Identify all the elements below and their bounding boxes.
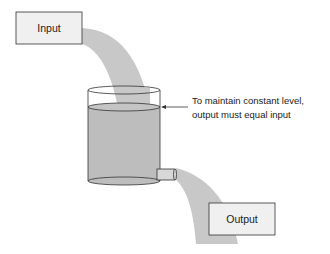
annotation-line-2: output must equal input	[192, 109, 291, 120]
annotation-line-1: To maintain constant level,	[192, 95, 304, 106]
tank-flow-diagram: Input Output To maintain constant level,…	[0, 0, 330, 254]
outlet-pipe	[157, 169, 177, 180]
water-surface	[88, 103, 160, 111]
tank-water	[88, 107, 160, 181]
input-label: Input	[37, 22, 60, 34]
input-box: Input	[16, 12, 82, 44]
output-box: Output	[209, 203, 275, 235]
arrowhead-icon	[161, 105, 166, 109]
tank	[88, 86, 160, 185]
tank-bottom	[88, 177, 160, 185]
level-annotation: To maintain constant level, output must …	[161, 95, 304, 120]
output-label: Output	[226, 213, 258, 225]
